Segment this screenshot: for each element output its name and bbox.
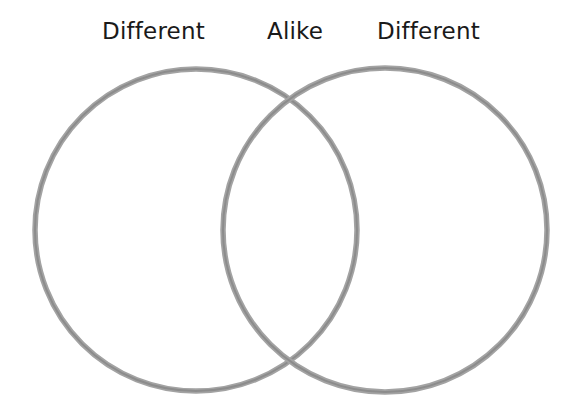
circle-right-group [223,68,547,392]
circle-left [35,69,357,391]
circle-left-group [35,69,357,391]
circle-right [223,68,547,392]
venn-circles [0,0,582,419]
